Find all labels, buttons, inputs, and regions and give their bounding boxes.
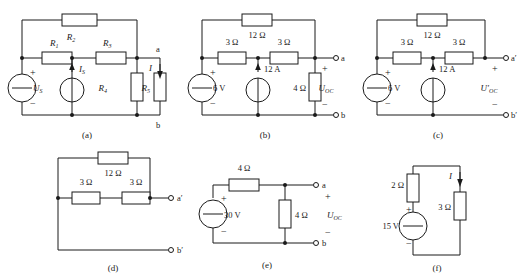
sign-minus-b-src: −: [210, 98, 216, 109]
current-f-arrowhead: [457, 179, 463, 187]
sign-minus-c-src: −: [385, 98, 391, 109]
sign-minus-f: −: [406, 238, 412, 249]
node-a4: [70, 113, 74, 117]
is-b-arrowhead: [255, 63, 261, 70]
circuit-c: 12 Ω 3 Ω 3 Ω 6 V 12 A U′OC + − + − a′ b′…: [345, 0, 521, 140]
resistor-d-right: [122, 192, 150, 204]
label-r1: R1: [49, 38, 59, 49]
wire-d-bottom: [58, 198, 168, 250]
node-a3: [135, 56, 139, 60]
node-c2: [431, 56, 435, 60]
resistor-e-series: [229, 179, 259, 191]
sign-minus-c-out: −: [492, 99, 498, 110]
circuit-b: 12 Ω 3 Ω 3 Ω 4 Ω 6 V 12 A UOC + − + − a …: [170, 0, 350, 140]
label-e-uoc: UOC: [327, 210, 343, 221]
node-b5: [313, 113, 317, 117]
label-b-shunt-r: 4 Ω: [293, 83, 306, 93]
label-b-top-r: 12 Ω: [249, 30, 266, 40]
label-b-right-r: 3 Ω: [278, 37, 291, 47]
label-r5: R5: [141, 83, 151, 94]
terminal-dot-b-a: [334, 56, 339, 61]
node-d1: [56, 196, 60, 200]
sign-plus-c-out: +: [492, 63, 498, 74]
resistor-b-right: [270, 52, 298, 64]
node-b2: [256, 56, 260, 60]
resistor-b-left: [218, 52, 246, 64]
sign-plus-b-src: +: [210, 67, 216, 78]
sign-minus-e-out: −: [325, 227, 331, 238]
label-b-vsource: 6 V: [213, 83, 226, 93]
is-c-arrowhead: [430, 63, 436, 70]
resistor-f-left: [407, 174, 419, 202]
node-d2: [148, 196, 152, 200]
caption-b: (b): [260, 130, 271, 140]
label-b-left-r: 3 Ω: [226, 37, 239, 47]
label-d-right-r: 3 Ω: [130, 177, 143, 187]
caption-e: (e): [262, 260, 272, 270]
node-a2: [70, 56, 74, 60]
sign-plus-a: +: [30, 67, 36, 78]
label-f-vsource: 15 V: [382, 221, 399, 231]
label-is: IS: [78, 64, 85, 75]
label-r2: R2: [66, 32, 76, 43]
label-e-shunt-r: 4 Ω: [295, 210, 308, 220]
terminal-a-top: a: [156, 44, 160, 54]
terminal-dot-d-b: [169, 248, 174, 253]
label-d-left-r: 3 Ω: [80, 177, 93, 187]
label-f-current: I: [448, 171, 453, 181]
terminal-e-top: a: [322, 180, 326, 190]
terminal-e-bottom: b: [322, 238, 326, 248]
terminal-d-top: a′: [177, 193, 183, 203]
caption-c: (c): [433, 130, 443, 140]
resistor-r3: [96, 52, 126, 64]
label-d-top-r: 12 Ω: [105, 168, 122, 178]
label-c-isource: 12 A: [439, 64, 456, 74]
terminal-c-bottom: b′: [511, 110, 517, 120]
sign-minus-b-out: −: [322, 99, 328, 110]
label-f-right-r: 3 Ω: [438, 202, 451, 212]
node-c4: [431, 113, 435, 117]
node-b4: [256, 113, 260, 117]
terminal-dot-e-b: [314, 241, 319, 246]
sign-plus-c-src: +: [385, 67, 391, 78]
label-f-left-r: 2 Ω: [391, 180, 404, 190]
resistor-r2: [62, 14, 97, 26]
node-c1: [375, 56, 379, 60]
node-b1: [200, 56, 204, 60]
terminal-dot-e-a: [314, 183, 319, 188]
circuit-d: 12 Ω 3 Ω 3 Ω a′ b′ (d): [10, 140, 200, 276]
label-r4: R4: [98, 83, 108, 94]
node-a1: [20, 56, 24, 60]
label-c-left-r: 3 Ω: [401, 37, 414, 47]
sign-plus-b-out: +: [322, 63, 328, 74]
caption-f: (f): [433, 263, 442, 273]
circuit-a: R2 R1 R3 R4 R5 US IS I + − a b (a): [0, 0, 175, 140]
resistor-c-left: [393, 52, 421, 64]
node-a5: [135, 113, 139, 117]
resistor-b-top: [242, 14, 272, 26]
label-b-isource: 12 A: [264, 64, 281, 74]
sign-plus-e-out: +: [325, 191, 331, 202]
label-e-series-r: 4 Ω: [238, 163, 251, 173]
resistor-f-right: [454, 192, 466, 220]
terminal-dot-c-b: [504, 113, 509, 118]
resistor-d-left: [72, 192, 100, 204]
label-c-vsource: 6 V: [388, 83, 401, 93]
label-c-uoc: U′OC: [481, 83, 499, 94]
node-c3: [483, 56, 487, 60]
sign-plus-e-src: +: [221, 193, 227, 204]
terminal-dot-d-a: [169, 196, 174, 201]
label-e-vsource: 30 V: [224, 210, 241, 220]
node-e1: [283, 183, 287, 187]
resistor-c-right: [445, 52, 473, 64]
resistor-d-top: [98, 152, 128, 164]
terminal-a-bottom: b: [156, 120, 160, 130]
label-us: US: [33, 83, 43, 94]
label-b-uoc: UOC: [319, 83, 335, 94]
node-b3: [313, 56, 317, 60]
caption-a: (a): [82, 130, 92, 140]
resistor-r1: [42, 52, 72, 64]
terminal-c-top: a′: [511, 53, 517, 63]
sign-plus-f: +: [406, 204, 412, 215]
resistor-c-top: [417, 14, 447, 26]
